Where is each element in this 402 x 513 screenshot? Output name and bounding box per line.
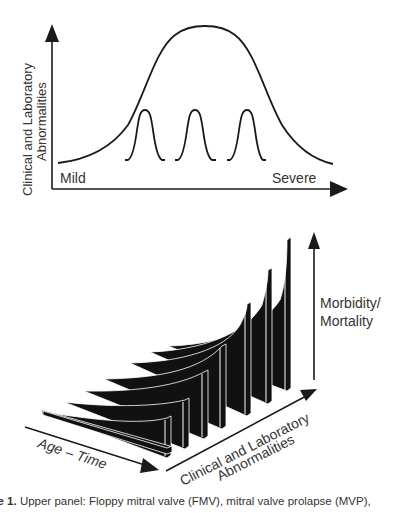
upper-x-axis-arrow-icon <box>330 181 348 197</box>
morbidity-label-line1: Morbidity/ <box>320 295 381 311</box>
upper-y-axis-label-line1: Clinical and Laboratory <box>20 63 35 196</box>
morbidity-label-line2: Mortality <box>320 313 373 329</box>
figure-caption: ure 1. Upper panel: Floppy mitral valve … <box>0 495 402 507</box>
narrow-peak-3 <box>227 110 266 160</box>
figure: Clinical and Laboratory Abnormalities Mi… <box>0 0 402 513</box>
severe-label: Severe <box>272 170 317 186</box>
upper-y-axis-label-line2: Abnormalities <box>34 82 49 161</box>
upper-y-axis-arrow-icon <box>45 24 59 42</box>
narrow-peak-2 <box>175 110 216 160</box>
age-time-axis-arrow-icon <box>140 458 159 473</box>
caption-prefix: ure 1. <box>0 495 17 507</box>
upper-panel: Clinical and Laboratory Abnormalities Mi… <box>20 24 348 197</box>
morbidity-axis-arrow-icon <box>308 232 320 249</box>
bell-curve <box>58 26 333 164</box>
mild-label: Mild <box>60 170 86 186</box>
lower-panel: Morbidity/ Mortality Age – Time Clinical… <box>25 232 381 489</box>
caption-text: Upper panel: Floppy mitral valve (FMV), … <box>17 495 371 507</box>
abnormalities-axis-arrow-icon <box>300 389 317 401</box>
age-time-label: Age – Time <box>35 434 109 472</box>
